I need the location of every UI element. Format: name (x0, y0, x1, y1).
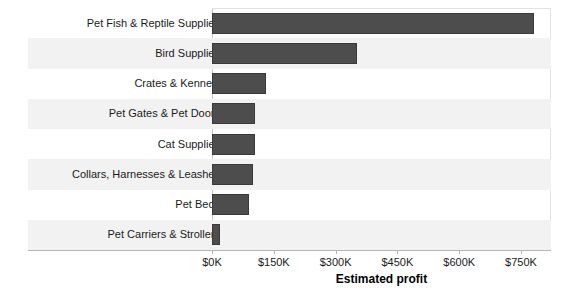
bar-track (212, 220, 551, 250)
bar[interactable] (212, 224, 220, 245)
chart-row: Bird Supplies (28, 38, 551, 68)
x-tick-label: $750K (505, 255, 537, 269)
bar-chart: Pet Fish & Reptile SuppliesBird Supplies… (0, 0, 572, 305)
bar-track (212, 190, 551, 220)
tick-mark (397, 250, 398, 254)
chart-row: Pet Beds (28, 190, 551, 220)
category-label: Pet Beds (44, 198, 220, 211)
category-label: Crates & Kennels (44, 77, 220, 90)
bar-track (212, 129, 551, 159)
chart-row: Crates & Kennels (28, 69, 551, 99)
bar[interactable] (212, 103, 255, 124)
bar[interactable] (212, 13, 534, 34)
category-label: Pet Fish & Reptile Supplies (44, 17, 220, 30)
bar-track (212, 99, 551, 129)
bar-track (212, 159, 551, 189)
x-tick-label: $450K (381, 255, 413, 269)
x-axis-title: Estimated profit (212, 272, 551, 286)
category-label: Pet Gates & Pet Doors (44, 107, 220, 120)
bar[interactable] (212, 194, 249, 215)
x-tick-label: $150K (258, 255, 290, 269)
tick-mark (274, 250, 275, 254)
bar[interactable] (212, 164, 253, 185)
category-label: Cat Supplies (44, 138, 220, 151)
bar-track (212, 69, 551, 99)
tick-mark (521, 250, 522, 254)
category-label: Pet Carriers & Strollers (44, 228, 220, 241)
category-label: Collars, Harnesses & Leashes (44, 168, 220, 181)
chart-row: Pet Gates & Pet Doors (28, 99, 551, 129)
bar[interactable] (212, 43, 357, 64)
chart-rows: Pet Fish & Reptile SuppliesBird Supplies… (28, 8, 551, 250)
chart-row: Pet Fish & Reptile Supplies (28, 8, 551, 38)
x-axis-ticks: $0K$150K$300K$450K$600K$750K (212, 250, 551, 274)
bar-track (212, 8, 551, 38)
x-tick-label: $300K (320, 255, 352, 269)
tick-mark (459, 250, 460, 254)
chart-row: Pet Carriers & Strollers (28, 220, 551, 250)
category-label: Bird Supplies (44, 47, 220, 60)
x-tick-label: $0K (202, 255, 222, 269)
bar[interactable] (212, 73, 266, 94)
bar-track (212, 38, 551, 68)
tick-mark (212, 250, 213, 254)
bar[interactable] (212, 134, 255, 155)
x-tick-label: $600K (443, 255, 475, 269)
chart-row: Collars, Harnesses & Leashes (28, 159, 551, 189)
tick-mark (336, 250, 337, 254)
chart-row: Cat Supplies (28, 129, 551, 159)
